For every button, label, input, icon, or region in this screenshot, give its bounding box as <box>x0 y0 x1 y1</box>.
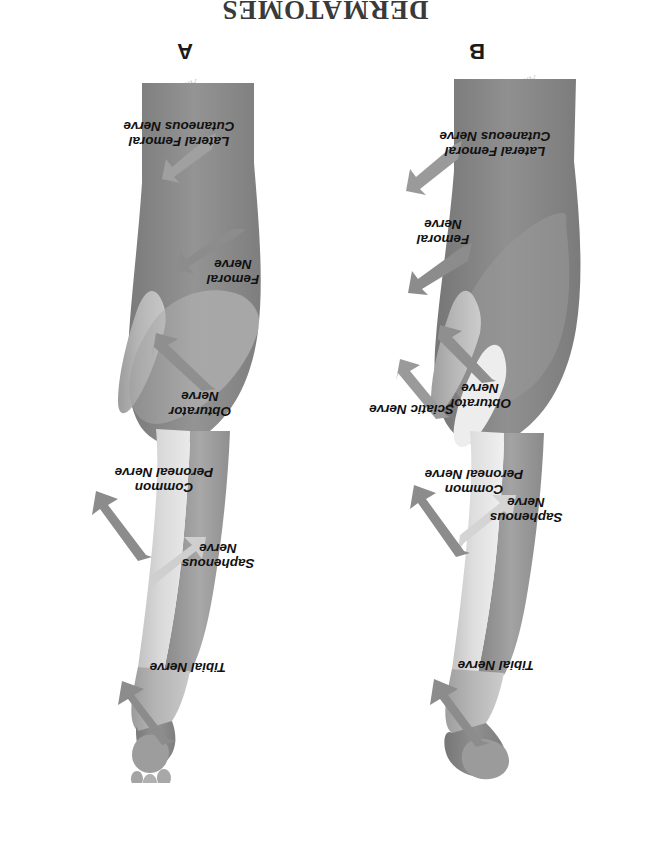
arrow-common-peroneal-nerve-a <box>90 491 156 561</box>
arrow-tibial-nerve-b <box>422 677 494 749</box>
label-common-peroneal-nerve-a: Common Peroneal Nerve <box>84 465 244 495</box>
arrow-obturator-nerve-a <box>150 331 218 391</box>
label-common-peroneal-nerve-b: Common Peroneal Nerve <box>394 467 554 497</box>
arrow-obturator-nerve-b <box>434 323 498 383</box>
label-femoral-nerve-a: Femoral Nerve <box>178 257 288 287</box>
label-femoral-nerve-b: Femoral Nerve <box>388 217 498 247</box>
label-saphenous-nerve-a: Saphenous Nerve <box>158 541 278 571</box>
toe-2-a <box>143 774 157 783</box>
label-lateral-femoral-cutaneous-nerve-a: Lateral Femoral Cutaneous Nerve <box>84 119 274 149</box>
label-obturator-nerve-a: Obturator Nerve <box>140 389 260 419</box>
label-lateral-femoral-cutaneous-nerve-b: Lateral Femoral Cutaneous Nerve <box>400 129 590 159</box>
toe-3-a <box>131 771 143 783</box>
dermatomes-figure: DERMATOMES A Anatomy <box>0 0 650 843</box>
toe-1-a <box>157 769 171 783</box>
label-tibial-nerve-a: Tibial Nerve <box>76 660 226 675</box>
label-obturator-nerve-b: Obturator Nerve <box>420 381 540 411</box>
label-tibial-nerve-b: Tibial Nerve <box>384 658 534 673</box>
arrow-femoral-nerve-b <box>402 239 472 295</box>
arrow-tibial-nerve-a <box>110 677 180 747</box>
label-saphenous-nerve-b: Saphenous Nerve <box>466 495 586 525</box>
figure-title: DERMATOMES <box>0 0 650 25</box>
panel-letter-a: A <box>177 38 193 64</box>
panel-letter-b: B <box>469 38 485 64</box>
